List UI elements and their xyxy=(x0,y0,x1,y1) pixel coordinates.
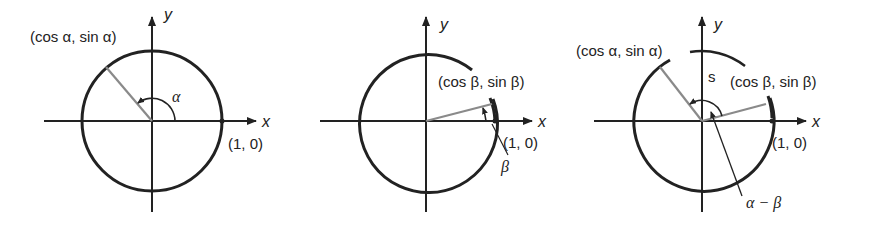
unit-point xyxy=(220,119,225,124)
panel-alpha: y x (cos α, sin α) (1, 0) α xyxy=(30,6,271,212)
unit-point-label: (1, 0) xyxy=(772,134,807,151)
angle-label-difference: α − β xyxy=(746,194,781,212)
x-axis-label: x xyxy=(261,113,271,130)
y-axis-label: y xyxy=(163,6,173,23)
y-axis-label: y xyxy=(713,16,723,33)
y-axis-label: y xyxy=(439,16,449,33)
point-label-alpha: (cos α, sin α) xyxy=(576,42,663,59)
leader-line-difference xyxy=(711,112,742,196)
unit-point-label: (1, 0) xyxy=(228,135,263,152)
panel-difference: y x (cos α, sin α) (cos β, sin β) s (1, … xyxy=(576,16,821,212)
x-axis-label: x xyxy=(811,113,821,130)
point-label-beta: (cos β, sin β) xyxy=(730,73,816,90)
angle-label-alpha: α xyxy=(172,88,181,105)
angle-label-beta: β xyxy=(500,158,509,176)
angle-arc-difference xyxy=(690,100,722,116)
arc-label-s: s xyxy=(708,68,716,85)
point-label-beta: (cos β, sin β) xyxy=(438,73,524,90)
unit-circle-figure: y x (cos α, sin α) (1, 0) α y x (cos β, … xyxy=(0,0,874,229)
panel-beta: y x (cos β, sin β) (1, 0) β xyxy=(320,16,547,212)
point-label-alpha: (cos α, sin α) xyxy=(30,28,117,45)
unit-point xyxy=(770,119,775,124)
unit-point xyxy=(493,119,498,124)
unit-point-label: (1, 0) xyxy=(503,134,538,151)
radius-alpha xyxy=(660,67,702,121)
angle-arc-beta xyxy=(483,108,486,121)
arc-s xyxy=(690,51,745,66)
radius-beta xyxy=(426,104,492,121)
radius-alpha xyxy=(106,67,152,121)
x-axis-label: x xyxy=(537,113,547,130)
